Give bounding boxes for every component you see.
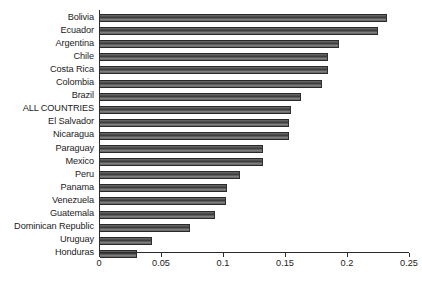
category-label: Colombia	[0, 77, 94, 87]
bar	[100, 184, 227, 192]
bar	[100, 250, 137, 258]
category-label: Guatemala	[0, 208, 94, 218]
bar	[100, 40, 339, 48]
category-label: Bolivia	[0, 12, 94, 22]
x-axis-tick	[347, 253, 348, 257]
x-axis-tick-label: 0.05	[152, 258, 170, 269]
category-label: Mexico	[0, 156, 94, 166]
bar	[100, 66, 328, 74]
x-axis-tick	[223, 253, 224, 257]
category-label: Chile	[0, 51, 94, 61]
category-label: Honduras	[0, 247, 94, 257]
category-label: Brazil	[0, 90, 94, 100]
x-axis-tick-label: 0	[96, 258, 101, 269]
category-label: El Salvador	[0, 116, 94, 126]
bar	[100, 106, 291, 114]
bar	[100, 158, 263, 166]
bar	[100, 145, 263, 153]
x-axis-tick-label: 0.1	[217, 258, 230, 269]
category-axis-labels: BoliviaEcuadorArgentinaChileCosta RicaCo…	[0, 10, 97, 252]
category-label: Venezuela	[0, 195, 94, 205]
bar	[100, 211, 215, 219]
bar	[100, 53, 328, 61]
x-axis-tick	[161, 253, 162, 257]
bar	[100, 237, 152, 245]
category-label: Panama	[0, 182, 94, 192]
bar	[100, 80, 322, 88]
category-label: Nicaragua	[0, 129, 94, 139]
bar	[100, 27, 378, 35]
category-label: Ecuador	[0, 25, 94, 35]
bar	[100, 119, 289, 127]
x-axis-tick	[99, 253, 100, 257]
x-axis-tick	[285, 253, 286, 257]
bar	[100, 197, 226, 205]
x-axis-tick	[409, 253, 410, 257]
category-label: Uruguay	[0, 234, 94, 244]
category-label: Argentina	[0, 38, 94, 48]
y-axis-line	[99, 10, 100, 253]
bar	[100, 93, 301, 101]
bar	[100, 132, 289, 140]
x-axis-tick-label: 0.25	[400, 258, 418, 269]
category-label: ALL COUNTRIES	[0, 103, 94, 113]
bar	[100, 171, 240, 179]
bar-chart: BoliviaEcuadorArgentinaChileCosta RicaCo…	[0, 0, 422, 288]
bar	[100, 224, 190, 232]
x-axis-tick-label: 0.15	[276, 258, 294, 269]
x-axis-line	[99, 252, 409, 253]
category-label: Dominican Republic	[0, 221, 94, 231]
bar	[100, 14, 387, 22]
category-label: Peru	[0, 169, 94, 179]
plot-area	[100, 10, 410, 252]
category-label: Costa Rica	[0, 64, 94, 74]
x-axis-tick-label: 0.2	[341, 258, 354, 269]
category-label: Paraguay	[0, 143, 94, 153]
